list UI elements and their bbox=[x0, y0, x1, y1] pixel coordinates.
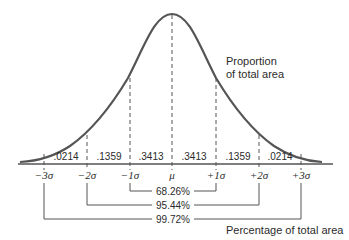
bracket-3sigma-left bbox=[44, 183, 152, 219]
curve-label-line1: Proportion bbox=[226, 55, 277, 67]
bracket-label-95: 95.44% bbox=[156, 200, 190, 211]
axis-tick-labels: −3σ −2σ −1σ μ +1σ +2σ +3σ bbox=[35, 169, 311, 181]
bracket-1sigma-right bbox=[194, 183, 216, 191]
tick-plus-3sigma: +3σ bbox=[292, 169, 311, 181]
region-label: .0214 bbox=[267, 151, 292, 162]
tick-plus-1sigma: +1σ bbox=[207, 169, 226, 181]
region-label: .3413 bbox=[181, 151, 206, 162]
region-label: .1359 bbox=[96, 151, 121, 162]
region-label: .0214 bbox=[53, 151, 78, 162]
region-proportion-labels: .0214 .1359 .3413 .3413 .1359 .0214 bbox=[53, 151, 292, 162]
tick-minus-1sigma: −1σ bbox=[121, 169, 140, 181]
bracket-2sigma-right bbox=[194, 183, 259, 205]
bracket-labels: 68.26% 95.44% 99.72% bbox=[156, 186, 190, 225]
region-label: .3413 bbox=[138, 151, 163, 162]
region-label: .1359 bbox=[225, 151, 250, 162]
tick-minus-2sigma: −2σ bbox=[78, 169, 97, 181]
bracket-label-99: 99.72% bbox=[156, 214, 190, 225]
bracket-2sigma-left bbox=[87, 183, 152, 205]
curve-annotation: Proportion of total area bbox=[226, 55, 285, 80]
bell-curve bbox=[20, 14, 322, 162]
tick-mean: μ bbox=[168, 169, 175, 181]
bracket-label-68: 68.26% bbox=[156, 186, 190, 197]
tick-plus-2sigma: +2σ bbox=[250, 169, 269, 181]
bracket-1sigma-left bbox=[130, 183, 152, 191]
normal-distribution-diagram: .0214 .1359 .3413 .3413 .1359 .0214 −3σ … bbox=[0, 0, 349, 240]
bracket-3sigma-right bbox=[194, 183, 301, 219]
sigma-dashed-lines bbox=[44, 15, 301, 170]
percentage-label: Percentage of total area bbox=[226, 224, 344, 236]
tick-minus-3sigma: −3σ bbox=[35, 169, 54, 181]
curve-label-line2: of total area bbox=[226, 68, 285, 80]
